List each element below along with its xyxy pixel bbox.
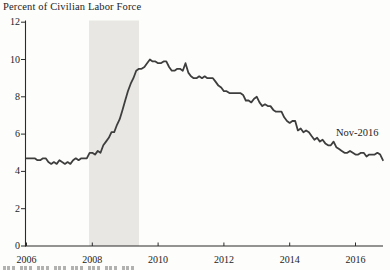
unemployment-rate-chart: Percent of Civilian Labor Force 02468101… [0,0,390,270]
cutoff-caption-fragments [3,266,134,270]
plot-area [0,0,390,270]
last-point-annotation: Nov-2016 [336,127,379,139]
y-ticks [21,22,26,246]
recession-shading-band [89,21,139,247]
unemployment-line [27,60,383,164]
